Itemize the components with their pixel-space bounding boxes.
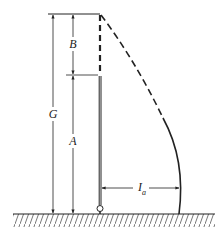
current-distribution-dashed <box>101 15 163 118</box>
label-g: G <box>49 107 58 121</box>
antenna-current-diagram: B G A I a <box>0 0 224 238</box>
current-distribution-solid <box>163 118 181 214</box>
label-b: B <box>69 37 77 51</box>
ground-hatching <box>13 214 215 227</box>
label-a: A <box>68 134 77 148</box>
label-current-ia-subscript: a <box>142 188 146 197</box>
base-insulator-icon <box>97 206 103 212</box>
